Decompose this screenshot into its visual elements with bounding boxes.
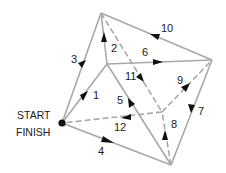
edge-label-4: 4 (98, 145, 104, 157)
arrow-11-icon (136, 73, 144, 82)
start-label: START (17, 109, 51, 121)
edge-label-12: 12 (114, 121, 126, 133)
edge-12 (62, 112, 162, 123)
arrow-4-icon (101, 136, 114, 143)
finish-label: FINISH (16, 126, 50, 138)
edge-label-10: 10 (161, 22, 173, 34)
graph-diagram: START FINISH 1 2 3 4 5 6 7 8 9 10 11 12 (0, 0, 226, 173)
arrow-1-icon (80, 91, 88, 101)
edge-label-6: 6 (142, 46, 148, 58)
arrow-6-icon (153, 59, 163, 65)
edge-label-3: 3 (71, 53, 77, 65)
arrow-10-icon (150, 34, 160, 40)
start-finish-node (58, 119, 65, 126)
arrow-8-icon (162, 130, 168, 140)
edge-3 (62, 13, 101, 123)
arrow-2-icon (101, 32, 107, 42)
edge-label-9: 9 (177, 74, 183, 86)
arrow-7-icon (188, 104, 195, 113)
edge-label-5: 5 (117, 94, 123, 106)
edge-label-7: 7 (198, 105, 204, 117)
edge-label-2: 2 (111, 42, 117, 54)
edge-label-11: 11 (125, 70, 136, 82)
edge-label-8: 8 (171, 118, 177, 130)
arrow-3-icon (78, 60, 86, 68)
edge-label-1: 1 (93, 89, 99, 101)
